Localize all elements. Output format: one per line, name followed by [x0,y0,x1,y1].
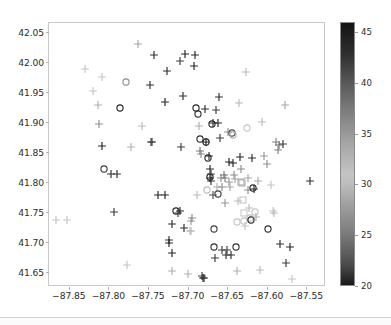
data-point-circle [227,128,236,137]
data-point-plus [224,178,233,187]
data-point-plus [196,149,205,158]
data-point-plus [245,204,254,213]
y-tick-label: 42.05 [18,27,44,38]
x-tick-label: −87.70 [171,290,204,301]
data-point-plus [176,207,185,216]
data-point-plus [181,50,190,59]
data-point-plus [272,138,281,147]
colorbar-tick-label: 45 [361,27,372,37]
data-point-plus [262,160,271,169]
data-point-plus [211,106,220,115]
data-point-circle [249,184,258,193]
data-point-plus [234,196,243,205]
data-point-plus [230,170,239,179]
colorbar-tick-label: 40 [361,78,372,88]
data-point-plus [249,184,258,193]
y-tick-label: 41.95 [18,87,44,98]
data-point-plus [178,91,187,100]
colorbar-tick-mark [355,134,358,135]
data-point-plus [215,134,224,143]
y-tick-label: 41.70 [18,237,44,248]
y-tick-mark [46,32,49,33]
data-point-plus [189,62,198,71]
data-point-plus [187,226,196,235]
data-point-plus [242,68,251,77]
data-point-plus [161,97,170,106]
data-point-plus [106,170,115,179]
data-point-plus [207,169,216,178]
data-point-plus [211,253,220,262]
data-point-plus [248,154,257,163]
data-point-plus [208,190,217,199]
data-point-circle [246,214,255,223]
data-point-plus [188,214,197,223]
data-point-plus [185,226,194,235]
data-point-circle [116,103,125,112]
y-tick-label: 42.00 [18,57,44,68]
data-point-circle [203,185,212,194]
data-point-circle [210,242,219,251]
data-point-plus [222,250,231,259]
data-point-plus [94,119,103,128]
scatter-plot-axes[interactable]: 41.6541.7041.7541.8041.8541.9041.9542.00… [48,22,325,286]
y-tick-mark [46,62,49,63]
data-point-plus [180,224,189,233]
y-tick-mark [46,182,49,183]
data-point-plus [175,56,184,65]
data-point-circle [201,137,210,146]
data-point-plus [227,251,236,260]
data-point-square [239,208,248,217]
data-point-plus [253,177,262,186]
data-point-circle [250,208,259,217]
data-point-plus [193,191,202,200]
colorbar[interactable]: 202530354045 [340,22,355,286]
data-point-circle [193,110,202,119]
colorbar-tick-label: 30 [361,179,372,189]
data-point-plus [221,174,230,183]
data-point-plus [218,246,227,255]
data-point-plus [205,164,214,173]
x-tick-label: −87.65 [210,290,243,301]
data-point-plus [285,243,294,252]
data-point-plus [220,199,229,208]
data-point-circle [242,124,251,133]
x-tick-label: −87.75 [131,290,164,301]
data-point-circle [192,103,201,112]
data-point-circle [196,135,205,144]
data-point-plus [191,50,200,59]
data-point-plus [202,138,211,147]
data-point-plus [243,173,252,182]
data-point-plus [177,142,186,151]
data-point-square [238,196,247,205]
data-point-plus [165,239,174,248]
data-point-circle [208,119,217,128]
data-point-plus [223,245,232,254]
x-tick-label: −87.80 [92,290,125,301]
y-tick-mark [46,152,49,153]
data-point-plus [183,270,192,279]
data-point-plus [280,100,289,109]
plot-data-area [49,23,324,285]
y-tick-mark [46,92,49,93]
data-point-plus [223,127,232,136]
data-point-plus [122,260,131,269]
data-point-plus [199,274,208,283]
data-point-plus [200,104,209,113]
data-point-plus [257,118,266,127]
data-point-plus [252,212,261,221]
data-point-plus [215,93,224,102]
data-point-plus [232,266,241,275]
data-point-plus [138,121,147,130]
data-point-plus [276,240,285,249]
y-tick-label: 41.80 [18,177,44,188]
data-point-plus [287,274,296,283]
colorbar-tick-mark [355,32,358,33]
data-point-plus [273,146,282,155]
data-point-plus [268,207,277,216]
data-point-plus [244,186,253,195]
data-point-plus [186,217,195,226]
data-point-plus [160,191,169,200]
data-point-plus [194,121,203,130]
data-point-plus [212,183,221,192]
data-point-plus [98,142,107,151]
